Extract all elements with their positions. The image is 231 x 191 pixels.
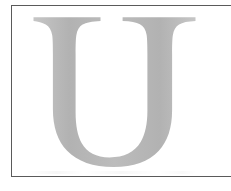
glyph-container	[0, 0, 231, 191]
scanned-letter-page	[0, 0, 231, 191]
letter-u-icon	[0, 0, 231, 191]
